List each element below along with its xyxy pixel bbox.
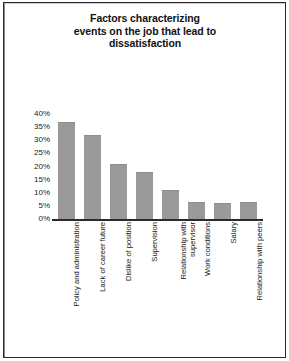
- x-tick-label-line: Work conditions: [204, 222, 212, 354]
- y-tick-label: 30%: [24, 136, 50, 144]
- bar: [188, 202, 205, 219]
- x-tick-label-line: Supervision: [151, 222, 159, 354]
- bar: [110, 164, 127, 219]
- x-tick-label-line: Relationship with: [180, 222, 189, 354]
- y-axis-ticks: 40%35%30%25%20%15%10%5%0%: [22, 110, 50, 224]
- bar: [58, 122, 75, 219]
- x-tick-label-line: Salary: [230, 222, 238, 354]
- x-tick-label-line: Lack of career future: [99, 222, 107, 354]
- x-tick-label-line: Relationship with peers: [256, 222, 264, 354]
- bar: [84, 135, 101, 219]
- chart-figure: Factors characterizingevents on the job …: [0, 0, 289, 361]
- x-tick-label: Lack of career future: [99, 222, 113, 354]
- x-tick-label-line: Policy and administration: [73, 222, 81, 354]
- chart-title: Factors characterizingevents on the job …: [14, 12, 276, 50]
- y-tick-label: 0%: [24, 215, 50, 223]
- x-tick-label: Policy and administration: [73, 222, 87, 354]
- bar: [240, 202, 257, 219]
- chart-title-line-1: Factors characterizing: [14, 12, 276, 25]
- x-tick-label: Relationship with peers: [256, 222, 270, 354]
- bar: [162, 190, 179, 219]
- plot-area: [53, 114, 262, 219]
- bar: [214, 203, 231, 219]
- x-tick-label-line: supervisor: [188, 222, 197, 354]
- y-tick-label: 20%: [24, 163, 50, 171]
- y-tick-label: 15%: [24, 176, 50, 184]
- y-tick-label: 10%: [24, 189, 50, 197]
- x-tick-label: Supervision: [151, 222, 165, 354]
- chart-title-line-2: events on the job that lead to: [14, 25, 276, 38]
- bar: [136, 172, 153, 219]
- x-tick-label: Work conditions: [204, 222, 218, 354]
- y-tick-label: 35%: [24, 123, 50, 131]
- y-tick-label: 40%: [24, 110, 50, 118]
- y-tick-label: 25%: [24, 149, 50, 157]
- x-tick-label-line: Dislike of position: [125, 222, 133, 354]
- chart-title-line-3: dissatisfaction: [14, 37, 276, 50]
- x-axis-labels: Policy and administrationLack of career …: [53, 222, 265, 354]
- x-axis-line: [52, 219, 263, 221]
- y-tick-label: 5%: [24, 202, 50, 210]
- x-tick-label: Salary: [230, 222, 244, 354]
- x-tick-label: Dislike of position: [125, 222, 139, 354]
- x-tick-label: Relationship withsupervisor: [180, 222, 198, 354]
